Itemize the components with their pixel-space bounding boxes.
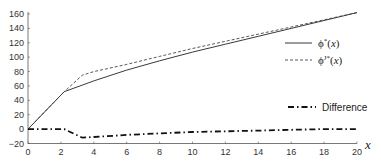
axes: 02468101214161820−2002040608010012014016…: [9, 9, 371, 157]
x-tick-label: 8: [157, 147, 162, 157]
series-line-2: [28, 13, 357, 130]
legend-phi-j-star: ϕJ*(x): [318, 54, 343, 67]
y-tick-label: 100: [9, 52, 24, 62]
series-line-3: [28, 129, 357, 138]
legend-difference: Difference: [322, 102, 368, 113]
x-tick-label: 2: [58, 147, 63, 157]
y-tick-label: 0: [19, 124, 24, 134]
x-tick-label: 12: [220, 147, 230, 157]
series-line-1: [28, 13, 357, 130]
y-tick-label: 120: [9, 38, 24, 48]
plot-lines: [28, 13, 357, 138]
legend-phi-star: ϕ*(x): [318, 37, 340, 50]
y-tick-label: 140: [9, 23, 24, 33]
y-tick-label: −20: [9, 139, 24, 149]
x-tick-label: 6: [124, 147, 129, 157]
legend: ϕ*(x) ϕJ*(x) Difference: [285, 37, 368, 113]
line-chart: 02468101214161820−2002040608010012014016…: [0, 0, 381, 164]
x-tick-label: 20: [352, 147, 362, 157]
x-axis-label: x: [364, 137, 371, 152]
x-tick-label: 16: [286, 147, 296, 157]
x-tick-label: 4: [91, 147, 96, 157]
y-tick-label: 20: [14, 110, 24, 120]
x-tick-label: 0: [25, 147, 30, 157]
y-tick-label: 60: [14, 81, 24, 91]
y-tick-label: 40: [14, 95, 24, 105]
x-tick-label: 14: [253, 147, 263, 157]
x-tick-label: 18: [319, 147, 329, 157]
y-tick-label: 80: [14, 67, 24, 77]
y-tick-label: 160: [9, 9, 24, 19]
x-tick-label: 10: [187, 147, 197, 157]
